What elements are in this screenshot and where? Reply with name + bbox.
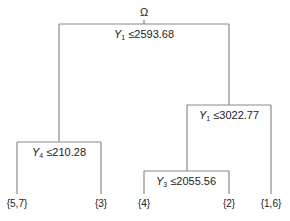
leaf-node-1-6: {1,6} [261,198,282,210]
split-threshold: 2055.56 [176,175,216,187]
split-label-y3-2055: Y3 ≤2055.56 [156,175,216,191]
split-variable-index: 1 [206,115,210,122]
split-label-y1-2593: Y1 ≤2593.68 [114,28,174,44]
leaf-node-5-7: {5,7} [7,198,28,210]
root-node-label: Ω [140,6,148,18]
split-variable-index: 4 [39,152,43,159]
split-threshold: 210.28 [52,146,86,158]
leaf-node-4: {4} [138,198,150,210]
split-variable-index: 3 [163,181,167,188]
leaf-node-2: {2} [223,198,235,210]
split-threshold: 2593.68 [134,28,174,40]
leaf-node-3: {3} [95,198,107,210]
split-threshold: 3022.77 [219,109,259,121]
split-variable-index: 1 [121,34,125,41]
split-label-y4-210: Y4 ≤210.28 [32,146,86,162]
split-label-y1-3022: Y1 ≤3022.77 [199,109,259,125]
